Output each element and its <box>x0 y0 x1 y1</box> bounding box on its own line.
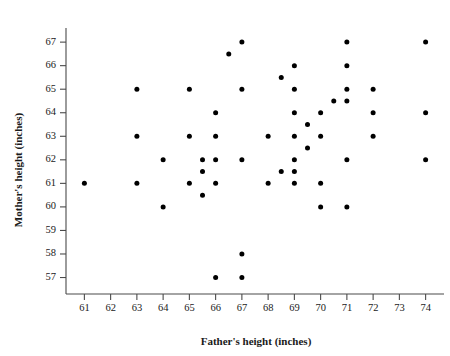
data-points-layer <box>82 40 428 280</box>
data-point <box>134 87 139 92</box>
data-point <box>292 63 297 68</box>
data-point <box>318 110 323 115</box>
x-tick-label: 74 <box>420 302 431 313</box>
x-tick-label: 64 <box>158 302 169 313</box>
data-point <box>187 87 192 92</box>
data-point <box>344 87 349 92</box>
y-axis-title: Mother's height (inches) <box>12 113 25 228</box>
data-point <box>161 157 166 162</box>
x-tick-label: 68 <box>263 302 274 313</box>
data-point <box>423 110 428 115</box>
x-axis: 6162636465666768697071727374 <box>66 294 444 313</box>
data-point <box>292 169 297 174</box>
data-point <box>239 275 244 280</box>
x-tick-label: 63 <box>132 302 143 313</box>
data-point <box>371 87 376 92</box>
data-point <box>200 169 205 174</box>
data-point <box>239 251 244 256</box>
data-point <box>187 181 192 186</box>
data-point <box>239 87 244 92</box>
data-point <box>292 157 297 162</box>
data-point <box>292 181 297 186</box>
data-point <box>318 134 323 139</box>
y-tick-label: 64 <box>46 106 57 117</box>
data-point <box>239 157 244 162</box>
data-point <box>187 134 192 139</box>
data-point <box>423 157 428 162</box>
y-tick-label: 59 <box>46 224 57 235</box>
y-tick-label: 60 <box>46 200 57 211</box>
x-tick-label: 65 <box>184 302 195 313</box>
data-point <box>292 134 297 139</box>
y-axis: 5758596061626364656667 <box>46 28 67 294</box>
plot-canvas: 5758596061626364656667 61626364656667686… <box>0 0 450 356</box>
y-tick-label: 63 <box>46 130 57 141</box>
data-point <box>318 181 323 186</box>
data-point <box>161 204 166 209</box>
x-axis-title: Father's height (inches) <box>201 335 312 348</box>
data-point <box>239 40 244 45</box>
data-point <box>200 157 205 162</box>
x-tick-label: 69 <box>289 302 300 313</box>
data-point <box>318 204 323 209</box>
data-point <box>423 40 428 45</box>
data-point <box>226 51 231 56</box>
data-point <box>213 134 218 139</box>
y-tick-label: 61 <box>46 177 57 188</box>
data-point <box>305 122 310 127</box>
data-point <box>134 181 139 186</box>
y-tick-label: 58 <box>46 247 57 258</box>
data-point <box>344 157 349 162</box>
data-point <box>292 110 297 115</box>
data-point <box>279 169 284 174</box>
x-tick-label: 73 <box>394 302 405 313</box>
data-point <box>371 110 376 115</box>
data-point <box>331 98 336 103</box>
x-tick-label: 61 <box>79 302 90 313</box>
data-point <box>344 40 349 45</box>
data-point <box>305 146 310 151</box>
y-tick-label: 67 <box>46 36 57 47</box>
y-tick-label: 65 <box>46 83 57 94</box>
data-point <box>213 181 218 186</box>
data-point <box>344 98 349 103</box>
data-point <box>266 134 271 139</box>
data-point <box>344 63 349 68</box>
data-point <box>213 157 218 162</box>
x-tick-label: 62 <box>105 302 116 313</box>
y-tick-label: 66 <box>46 59 57 70</box>
data-point <box>279 75 284 80</box>
data-point <box>371 134 376 139</box>
data-point <box>200 193 205 198</box>
y-tick-label: 57 <box>46 271 57 282</box>
y-tick-label: 62 <box>46 153 57 164</box>
data-point <box>292 87 297 92</box>
x-tick-label: 66 <box>210 302 221 313</box>
data-point <box>213 275 218 280</box>
x-tick-label: 70 <box>315 302 326 313</box>
data-point <box>82 181 87 186</box>
data-point <box>213 110 218 115</box>
data-point <box>266 181 271 186</box>
scatter-plot-figure: 5758596061626364656667 61626364656667686… <box>0 0 450 356</box>
data-point <box>344 204 349 209</box>
data-point <box>134 134 139 139</box>
x-tick-label: 71 <box>342 302 353 313</box>
x-tick-label: 67 <box>237 302 248 313</box>
x-tick-label: 72 <box>368 302 379 313</box>
